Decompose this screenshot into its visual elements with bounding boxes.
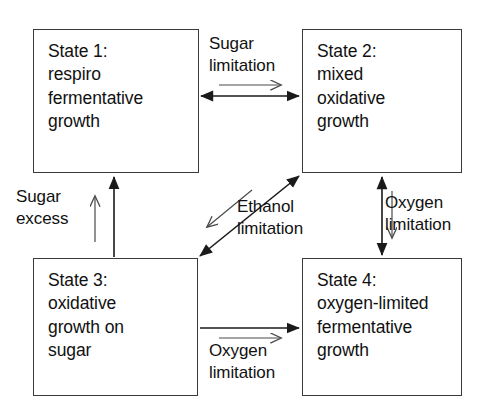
state-box-label: State 4: oxygen-limited fermentative gro… <box>317 269 455 362</box>
state-transition-diagram: State 1: respiro fermentative growth Sta… <box>0 0 492 410</box>
edge-oxygen-limitation-bottom <box>200 328 299 338</box>
edge-label-oxygen-limitation-bottom: Oxygen limitation <box>209 340 275 384</box>
state-box-state-1[interactable]: State 1: respiro fermentative growth <box>33 29 199 173</box>
state-box-state-3[interactable]: State 3: oxidative growth on sugar <box>33 258 198 396</box>
edge-label-sugar-limitation: Sugar limitation <box>209 33 275 77</box>
state-box-state-2[interactable]: State 2: mixed oxidative growth <box>302 29 462 173</box>
edge-sugar-limitation <box>201 85 299 96</box>
state-box-label: State 1: respiro fermentative growth <box>48 40 192 133</box>
edge-label-ethanol-limitation: Ethanol limitation <box>237 196 303 240</box>
state-box-label: State 3: oxidative growth on sugar <box>48 269 191 362</box>
state-box-state-4[interactable]: State 4: oxygen-limited fermentative gro… <box>302 258 462 396</box>
edge-label-sugar-excess: Sugar excess <box>16 186 68 230</box>
edge-sugar-excess <box>95 177 114 257</box>
state-box-label: State 2: mixed oxidative growth <box>317 40 455 133</box>
edge-label-oxygen-limitation-right: Oxygen limitation <box>385 192 451 236</box>
